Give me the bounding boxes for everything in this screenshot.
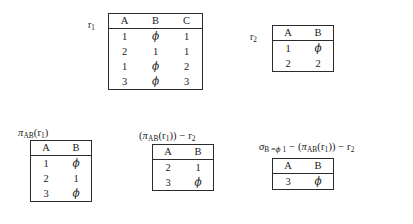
column-header-b: B [183,145,214,160]
caption-relation-subscript: 1 [325,145,329,154]
cell-b: 1 [183,160,214,176]
table-row: 3 ϕ [31,186,92,202]
column-header-a: A [109,14,141,29]
relation-table-projection-minus-r2: A B 2 1 3 ϕ [152,144,214,191]
table-header-row: A B [153,145,214,160]
cell-a: 3 [31,186,62,202]
column-header-b: B [303,26,334,41]
column-header-a: A [153,145,184,160]
caption-projection-ab-r1: πAB(r1) [18,128,48,139]
caption-paren-close: ) [45,127,49,138]
caption-minus-operator: − [177,130,188,141]
cell-b: ϕ [140,29,171,45]
caption-parens-close: )) [169,130,176,141]
cell-b: ϕ [140,74,171,90]
table-row: 1 ϕ [31,156,92,172]
pi-subscript-ab: AB [148,134,158,143]
column-header-a: A [31,141,62,156]
cell-b: ϕ [140,59,171,74]
caption-selection-b-eq-phi: σB =ϕ 1 − (πAB(r1)) − r2 [259,142,354,153]
cell-a: 2 [273,56,304,72]
relation-table-projection-ab-r1: A B 1 ϕ 2 1 3 ϕ [30,140,92,202]
diagram-canvas: r1 A B C 1 ϕ 1 2 1 1 1 ϕ 2 [0,0,413,224]
sigma-subscript-condition: B =ϕ 1 [264,145,286,154]
cell-b: ϕ [303,174,334,190]
relation-label-r1: r1 [88,20,95,30]
cell-c: 1 [171,44,203,59]
caption-minus-operator: − [286,141,297,152]
cell-a: 1 [109,59,141,74]
table-header-row: A B [273,159,334,174]
cell-b: 1 [61,171,92,186]
relation-table-r2: A B 1 ϕ 2 2 [272,25,334,72]
table-row: 2 2 [273,56,334,72]
table-row: 2 1 [31,171,92,186]
column-header-a: A [273,159,304,174]
cell-b: ϕ [303,41,334,57]
caption-parens-close: )) [328,141,335,152]
caption-relation-r2-subscript: 2 [192,134,196,143]
table-row: 3 ϕ 3 [109,74,203,90]
cell-c: 1 [171,29,203,45]
table-row: 3 ϕ [273,174,334,190]
column-header-b: B [61,141,92,156]
cell-a: 3 [109,74,141,90]
cell-a: 2 [31,171,62,186]
relation-table-selection-b-eq-phi: A B 3 ϕ [272,158,334,190]
pi-subscript-ab: AB [307,145,317,154]
cell-a: 1 [273,41,304,57]
cell-b: 1 [140,44,171,59]
table-header-row: A B [31,141,92,156]
relation-label-r2-subscript: 2 [253,36,257,44]
table-row: 1 ϕ 1 [109,29,203,45]
phi-symbol: ϕ [276,145,281,154]
relation-label-r1-subscript: 1 [91,24,95,32]
cell-c: 2 [171,59,203,74]
cell-b: 2 [303,56,334,72]
cell-a: 3 [273,174,304,190]
caption-relation-r2-subscript: 2 [351,145,355,154]
caption-projection-minus-r2: (πAB(r1)) − r2 [139,131,196,142]
cell-b: ϕ [183,175,214,191]
cell-b: ϕ [61,186,92,202]
table-row: 1 ϕ [273,41,334,57]
table-row: 1 ϕ 2 [109,59,203,74]
cell-a: 1 [109,29,141,45]
table-header-row: A B [273,26,334,41]
table-header-row: A B C [109,14,203,29]
table-row: 2 1 [153,160,214,176]
relation-table-r1: A B C 1 ϕ 1 2 1 1 1 ϕ 2 3 ϕ [108,13,203,90]
table-row: 2 1 1 [109,44,203,59]
column-header-c: C [171,14,203,29]
cell-a: 3 [153,175,184,191]
caption-minus-operator-2: − [336,141,347,152]
column-header-a: A [273,26,304,41]
cell-c: 3 [171,74,203,90]
table-row: 3 ϕ [153,175,214,191]
column-header-b: B [140,14,171,29]
pi-subscript-ab: AB [23,131,33,140]
caption-relation-subscript: 1 [41,131,45,140]
cell-b: ϕ [61,156,92,172]
caption-relation-subscript: 1 [166,134,170,143]
cell-a: 2 [109,44,141,59]
cell-a: 2 [153,160,184,176]
cell-a: 1 [31,156,62,172]
column-header-b: B [303,159,334,174]
relation-label-r2: r2 [250,32,257,42]
